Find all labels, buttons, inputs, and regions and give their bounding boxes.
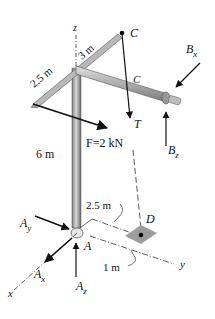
label-Ax: Ax — [33, 267, 45, 284]
label-Ay: Ay — [19, 216, 31, 233]
shaft-end — [168, 95, 182, 105]
force-F-arrow — [33, 104, 107, 128]
label-T: T — [134, 117, 142, 131]
label-C-mid: C — [133, 73, 141, 85]
label-F: F=2 kN — [86, 136, 123, 150]
vertical-mast — [72, 68, 81, 228]
x-axis-label: x — [7, 287, 13, 299]
leader-base — [80, 219, 92, 228]
dim-base-offset: 2.5 m — [86, 199, 112, 211]
dim-arm-front: 2.5 m — [28, 64, 55, 90]
label-Bz: Bz — [168, 143, 179, 160]
y-axis — [90, 236, 174, 264]
y-axis-label: y — [179, 258, 185, 270]
structure-diagram: z C T C 3 m 2.5 m F=2 kN 6 m Bx Bz A x y… — [0, 0, 215, 319]
dim-mast-height: 6 m — [36, 147, 55, 161]
cable-dashed-to-D — [133, 150, 141, 228]
label-A: A — [83, 239, 92, 253]
label-Az: Az — [75, 279, 87, 296]
force-Bx-arrow — [176, 63, 200, 87]
z-axis-label: z — [72, 22, 77, 33]
label-C-top: C — [130, 26, 139, 40]
force-Ay-arrow — [35, 216, 69, 229]
label-Bx: Bx — [186, 42, 197, 59]
dim-d-offset: 1 m — [103, 261, 120, 273]
point-D — [139, 233, 144, 238]
dim-d-leader — [128, 250, 136, 266]
cable-T-arrow — [122, 34, 130, 118]
label-D: D — [145, 212, 155, 226]
force-Ax-arrow — [45, 238, 72, 262]
dim-base-leader — [114, 204, 123, 222]
horizontal-arm-to-B — [76, 66, 168, 102]
